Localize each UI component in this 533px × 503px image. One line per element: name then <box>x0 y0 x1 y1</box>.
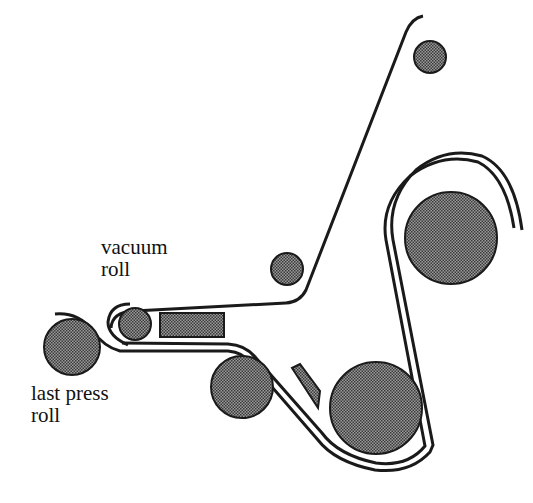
last-press-roll-label-line2: roll <box>31 404 109 426</box>
bottom-dryer-roll <box>330 362 422 454</box>
diagram-drawing <box>0 0 533 503</box>
last-press-roll-label-line1: last press <box>31 382 109 404</box>
top-right-small-roll <box>414 41 446 73</box>
guide-roll-middle <box>271 253 303 285</box>
vacuum-roll-label-line1: vacuum <box>101 236 167 258</box>
last-press-roll <box>44 319 100 375</box>
last-press-roll-label: last press roll <box>31 382 109 426</box>
vacuum-roll-label: vacuum roll <box>101 236 167 280</box>
doctor-blade <box>292 364 320 408</box>
vacuum-roll-label-line2: roll <box>101 258 167 280</box>
suction-box <box>160 313 224 337</box>
press-section-diagram: vacuum roll last press roll <box>0 0 533 503</box>
lower-roll <box>211 356 273 418</box>
felt-line-upper <box>111 16 423 328</box>
upper-right-dryer-roll <box>405 192 497 284</box>
vacuum-roll <box>119 308 151 340</box>
